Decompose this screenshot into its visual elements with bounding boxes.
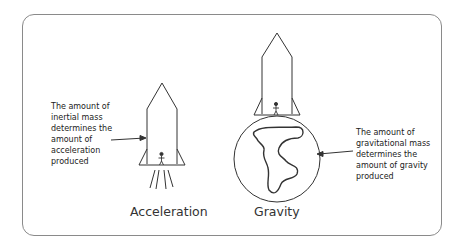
note-line: acceleration [51, 145, 112, 156]
gravitational-mass-note: The amount of gravitational mass determi… [356, 127, 430, 182]
note-line: amount of gravity [356, 160, 430, 171]
note-line: gravitational mass [356, 138, 430, 149]
note-line: determines the [356, 149, 430, 160]
stick-figure-icon [273, 102, 279, 115]
note-line: amount of [51, 134, 112, 145]
note-line: produced [356, 171, 430, 182]
inertial-mass-note: The amount of inertial mass determines t… [51, 101, 112, 167]
note-line: The amount of [356, 127, 430, 138]
note-line: produced [51, 156, 112, 167]
arrow-gravitational [319, 151, 353, 154]
stick-figure-icon [159, 152, 165, 165]
note-line: inertial mass [51, 112, 112, 123]
note-line: The amount of [51, 101, 112, 112]
gravity-caption: Gravity [254, 204, 300, 219]
acceleration-caption: Acceleration [130, 204, 208, 219]
planet-icon [234, 116, 320, 202]
note-line: determines the [51, 123, 112, 134]
exhaust-lines-icon [150, 170, 173, 189]
